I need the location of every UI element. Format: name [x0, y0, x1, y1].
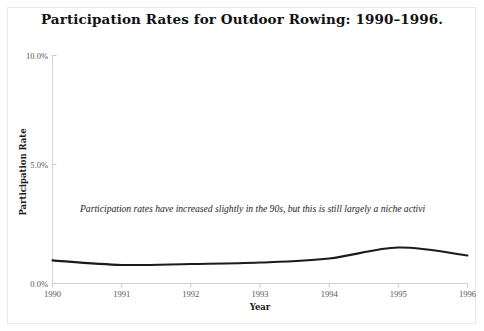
- y-tick-label-5: 5.0%: [30, 160, 48, 170]
- x-axis-title: Year: [249, 302, 271, 312]
- y-tick-label-0: 0.0%: [30, 279, 48, 289]
- y-tick-label-10: 10.0%: [26, 51, 48, 61]
- x-tick-label-1994: 1994: [321, 289, 339, 299]
- x-tick-label-1995: 1995: [390, 289, 407, 299]
- x-tick-label-1992: 1992: [182, 289, 199, 299]
- x-tick-label-1991: 1991: [113, 289, 130, 299]
- y-axis-title: Participation Rate: [18, 128, 28, 216]
- x-tick-label-1996: 1996: [459, 289, 476, 299]
- x-tick-label-1990: 1990: [44, 289, 61, 299]
- plot-area: 10.0% 5.0% 0.0% Participation Rate 1990 …: [0, 0, 484, 331]
- x-tick-label-1993: 1993: [252, 289, 269, 299]
- chart-annotation: Participation rates have increased sligh…: [79, 203, 425, 214]
- chart-figure: Participation Rates for Outdoor Rowing: …: [0, 0, 484, 331]
- data-series-line: [53, 248, 468, 266]
